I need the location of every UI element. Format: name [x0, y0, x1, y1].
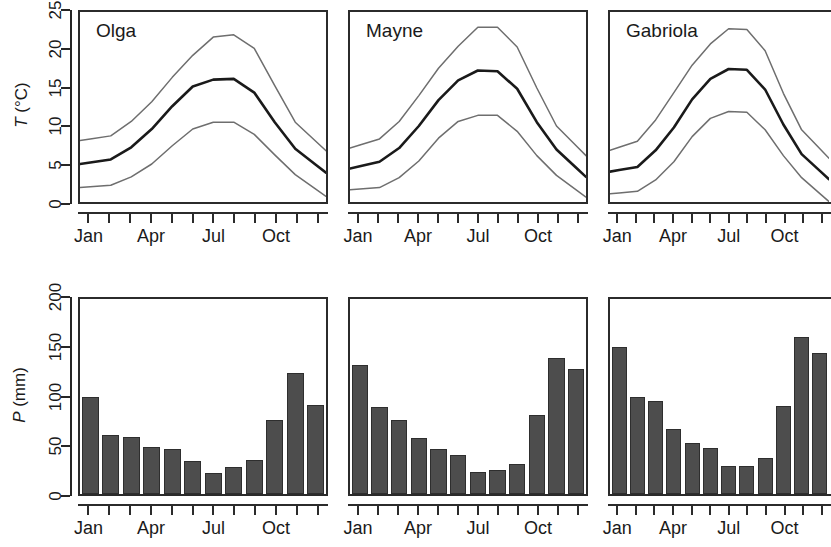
precipitation-x-tick: [192, 504, 194, 515]
temperature-x-axis-line: [348, 212, 588, 214]
precipitation-bar: [287, 373, 304, 494]
precipitation-x-tick: [87, 504, 89, 515]
temperature-x-tick: [577, 212, 579, 223]
precipitation-x-tick: [437, 504, 439, 515]
x-axis-label-jul: Jul: [202, 518, 225, 539]
precipitation-bar: [246, 460, 263, 494]
precipitation-bar: [794, 337, 809, 494]
axis-title-symbol: T: [12, 117, 31, 127]
temperature-x-tick: [821, 212, 823, 223]
x-axis-label-oct: Oct: [262, 226, 290, 247]
x-axis-label-oct: Oct: [524, 518, 552, 539]
panel-title-mayne: Mayne: [366, 20, 423, 42]
precipitation-x-tick: [537, 504, 539, 515]
temperature-x-tick: [497, 212, 499, 223]
precipitation-bar: [307, 405, 324, 494]
precipitation-x-tick: [129, 504, 131, 515]
precipitation-x-tick: [317, 504, 319, 515]
precipitation-x-tick: [672, 504, 674, 515]
precipitation-x-tick: [457, 504, 459, 515]
temperature-x-tick: [233, 212, 235, 223]
axis-title-unit: (mm): [10, 367, 29, 411]
temperature-panel-gabriola: Gabriola: [608, 10, 831, 204]
precipitation-panel-gabriola: [608, 297, 831, 496]
precipitation-bar: [685, 443, 700, 494]
temperature-y-axis-line: [70, 10, 72, 204]
precipitation-bar: [371, 407, 387, 494]
panel-title-gabriola: Gabriola: [626, 20, 698, 42]
precipitation-x-tick: [233, 504, 235, 515]
temperature-x-axis-line: [78, 212, 328, 214]
precipitation-x-axis-line: [348, 504, 588, 506]
temperature-series-max: [610, 29, 829, 159]
temperature-series-mean: [350, 71, 586, 177]
temperature-x-axis-line: [608, 212, 831, 214]
precipitation-x-tick: [296, 504, 298, 515]
x-axis-label-apr: Apr: [659, 226, 687, 247]
temperature-x-tick: [192, 212, 194, 223]
temperature-series-min: [80, 122, 326, 196]
temperature-series-max: [350, 27, 586, 155]
precipitation-x-tick: [765, 504, 767, 515]
temperature-x-tick: [616, 212, 618, 223]
temperature-x-tick: [437, 212, 439, 223]
x-axis-label-jul: Jul: [717, 518, 740, 539]
temperature-x-tick: [477, 212, 479, 223]
x-axis-label-jan: Jan: [603, 518, 632, 539]
precipitation-bar: [648, 401, 663, 494]
x-axis-label-jul: Jul: [466, 226, 489, 247]
precipitation-bar: [450, 455, 466, 494]
precipitation-x-tick: [497, 504, 499, 515]
x-axis-label-apr: Apr: [659, 518, 687, 539]
precipitation-panel-olga: [78, 297, 328, 496]
precipitation-x-labels-1: JanAprJulOct: [348, 518, 588, 542]
precipitation-bar: [430, 449, 446, 494]
temperature-series-max: [80, 35, 326, 151]
temperature-x-tick: [784, 212, 786, 223]
x-axis-label-oct: Oct: [524, 226, 552, 247]
precipitation-x-tick: [557, 504, 559, 515]
precipitation-bar: [758, 458, 773, 494]
precipitation-x-axis-line: [608, 504, 831, 506]
x-axis-label-jan: Jan: [343, 226, 372, 247]
temperature-x-tick: [517, 212, 519, 223]
temperature-x-tick: [557, 212, 559, 223]
temperature-x-tick: [537, 212, 539, 223]
temperature-x-labels-1: JanAprJulOct: [348, 226, 588, 250]
precipitation-bar: [102, 435, 119, 494]
precipitation-x-tick: [417, 504, 419, 515]
precipitation-bar: [225, 467, 242, 494]
precipitation-panel-mayne: [348, 297, 588, 496]
precipitation-x-tick: [377, 504, 379, 515]
precipitation-x-tick: [746, 504, 748, 515]
panel-title-olga: Olga: [96, 20, 136, 42]
precipitation-x-tick: [477, 504, 479, 515]
precipitation-bar: [82, 397, 99, 494]
temperature-x-tick: [457, 212, 459, 223]
temperature-x-tick: [653, 212, 655, 223]
precipitation-x-labels-0: JanAprJulOct: [78, 518, 328, 542]
precipitation-x-axis-line: [78, 504, 328, 506]
temperature-x-tick: [635, 212, 637, 223]
temperature-x-tick: [765, 212, 767, 223]
precipitation-x-tick: [275, 504, 277, 515]
precipitation-x-tick: [357, 504, 359, 515]
precipitation-x-tick: [821, 504, 823, 515]
temperature-x-labels-2: JanAprJulOct: [608, 226, 831, 250]
x-axis-label-jan: Jan: [343, 518, 372, 539]
precipitation-axis-title: P (mm): [10, 335, 30, 455]
temperature-x-tick: [275, 212, 277, 223]
temperature-x-labels-0: JanAprJulOct: [78, 226, 328, 250]
x-axis-label-jan: Jan: [74, 518, 103, 539]
temperature-x-tick: [254, 212, 256, 223]
precipitation-bar: [205, 473, 222, 494]
precipitation-x-tick: [728, 504, 730, 515]
precipitation-bar: [352, 365, 368, 494]
x-axis-label-apr: Apr: [404, 518, 432, 539]
precipitation-x-tick: [212, 504, 214, 515]
temperature-x-tick: [397, 212, 399, 223]
x-axis-label-apr: Apr: [137, 226, 165, 247]
precipitation-x-tick: [171, 504, 173, 515]
precipitation-bar: [509, 464, 525, 494]
temperature-series-mean: [610, 69, 829, 179]
